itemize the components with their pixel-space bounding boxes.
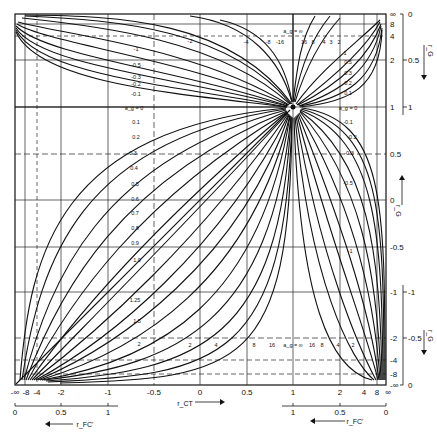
svg-text:16: 16 xyxy=(269,342,275,348)
svg-text:0.2: 0.2 xyxy=(132,134,140,140)
svg-text:r_G: r_G xyxy=(426,330,434,342)
svg-text:-8: -8 xyxy=(22,388,30,397)
svg-text:0.5: 0.5 xyxy=(55,408,67,417)
svg-text:0.7: 0.7 xyxy=(131,210,139,216)
svg-text:2: 2 xyxy=(188,342,191,348)
x-tick-labels: -∞ -8 -4 -2 -1 -0.5 0 0.5 1 2 4 8 ∞ xyxy=(11,388,391,397)
svg-text:-0.3: -0.3 xyxy=(131,74,140,80)
svg-text:-∞: -∞ xyxy=(11,388,20,397)
svg-text:1: 1 xyxy=(106,408,111,417)
svg-text:-1: -1 xyxy=(134,46,139,52)
svg-text:-2: -2 xyxy=(57,388,65,397)
svg-text:0.4: 0.4 xyxy=(130,165,138,171)
svg-text:-8: -8 xyxy=(390,370,398,379)
svg-text:-2: -2 xyxy=(390,334,398,343)
svg-text:2: 2 xyxy=(390,56,395,65)
svg-text:2: 2 xyxy=(351,342,354,348)
svg-text:4: 4 xyxy=(322,39,325,45)
svg-text:-0.5: -0.5 xyxy=(390,243,404,252)
svg-text:0.5: 0.5 xyxy=(390,150,402,159)
svg-text:1: 1 xyxy=(343,50,346,56)
svg-text:-0.2: -0.2 xyxy=(131,81,140,87)
svg-text:4: 4 xyxy=(336,342,339,348)
rfc-scale-labels: 0 0.5 1 1 0.5 0 r_FC' r_CT r_FC' xyxy=(13,400,389,429)
svg-text:1: 1 xyxy=(291,388,296,397)
bottom-secondary-scales xyxy=(15,402,386,424)
arrow-down-icon xyxy=(421,75,427,80)
svg-text:-0.5: -0.5 xyxy=(147,388,161,397)
svg-text:8: 8 xyxy=(320,342,323,348)
svg-text:8: 8 xyxy=(375,388,380,397)
svg-text:0: 0 xyxy=(13,408,18,417)
svg-text:-∞: -∞ xyxy=(390,381,399,390)
arrow-right-icon xyxy=(220,399,225,405)
svg-text:-8: -8 xyxy=(266,39,271,45)
svg-text:r_G: r_G xyxy=(394,205,402,217)
svg-text:-0.1: -0.1 xyxy=(131,91,140,97)
svg-text:-1: -1 xyxy=(408,288,416,297)
svg-text:-1: -1 xyxy=(348,248,353,254)
svg-text:a_g = ∞: a_g = ∞ xyxy=(283,342,302,348)
svg-text:0.5: 0.5 xyxy=(344,59,352,65)
svg-text:0: 0 xyxy=(198,388,203,397)
svg-text:-1: -1 xyxy=(104,388,112,397)
arrow-left-icon xyxy=(45,421,50,427)
svg-text:16: 16 xyxy=(309,342,315,348)
nomogram-chart: -∞ -8 -4 -2 -1 -0.5 0 0.5 1 2 4 8 ∞ ∞ 8 … xyxy=(0,0,437,439)
svg-text:0: 0 xyxy=(390,196,395,205)
series-labels-upper-right: 1 0.5 0.3 0.2 0.1 a_g = 0 -0.1 -0.2 -0.3… xyxy=(339,50,358,254)
svg-text:1.25: 1.25 xyxy=(130,297,141,303)
svg-text:-1: -1 xyxy=(390,288,398,297)
svg-text:0: 0 xyxy=(408,10,413,19)
svg-text:-4: -4 xyxy=(244,39,249,45)
svg-text:1: 1 xyxy=(390,103,395,112)
svg-text:2: 2 xyxy=(338,388,343,397)
svg-text:0: 0 xyxy=(408,381,413,390)
svg-text:0.5: 0.5 xyxy=(131,181,139,187)
svg-text:4: 4 xyxy=(362,388,367,397)
svg-text:0.5: 0.5 xyxy=(334,408,346,417)
arrow-up-icon xyxy=(399,175,405,180)
svg-text:8: 8 xyxy=(390,20,395,29)
center-point xyxy=(291,105,296,110)
svg-text:r_CT: r_CT xyxy=(177,400,193,408)
svg-text:1.0: 1.0 xyxy=(133,257,141,263)
svg-text:1: 1 xyxy=(408,103,413,112)
svg-text:8: 8 xyxy=(311,39,314,45)
svg-text:∞: ∞ xyxy=(390,10,396,19)
arrow-left-icon xyxy=(310,418,315,424)
svg-text:-4: -4 xyxy=(390,356,398,365)
svg-text:0.3: 0.3 xyxy=(344,70,352,76)
svg-text:-16: -16 xyxy=(276,39,284,45)
svg-text:-2: -2 xyxy=(188,38,193,44)
svg-text:-0.5: -0.5 xyxy=(343,180,352,186)
svg-text:0.1: 0.1 xyxy=(132,119,140,125)
svg-text:1.5: 1.5 xyxy=(133,318,141,324)
series-labels-bottom: 2 4 8 16 a_g = ∞ 16 8 4 2 xyxy=(188,342,354,348)
svg-text:a_g = 0: a_g = 0 xyxy=(339,105,358,111)
svg-text:-0.1: -0.1 xyxy=(343,119,352,125)
svg-text:0.6: 0.6 xyxy=(131,196,139,202)
svg-text:16: 16 xyxy=(301,39,307,45)
svg-text:r_FC': r_FC' xyxy=(347,418,364,426)
svg-text:0.5: 0.5 xyxy=(241,388,253,397)
svg-text:-0.5: -0.5 xyxy=(131,62,140,68)
svg-text:a_g = 0: a_g = 0 xyxy=(125,105,144,111)
svg-text:2: 2 xyxy=(137,341,140,347)
svg-text:0.9: 0.9 xyxy=(131,240,139,246)
rg-scale-labels: 0 0.5 1 -1 -0.5 0 r_G r_G r_G xyxy=(394,10,434,390)
svg-text:-0.3: -0.3 xyxy=(344,150,353,156)
svg-text:4: 4 xyxy=(214,342,217,348)
svg-text:r_G: r_G xyxy=(426,45,434,57)
svg-text:2: 2 xyxy=(337,39,340,45)
svg-text:0.8: 0.8 xyxy=(131,225,139,231)
svg-text:-0.5: -0.5 xyxy=(408,334,422,343)
svg-text:r_FC': r_FC' xyxy=(77,421,94,429)
svg-text:0.3: 0.3 xyxy=(129,150,137,156)
svg-text:4: 4 xyxy=(390,32,395,41)
svg-text:0.2: 0.2 xyxy=(344,80,352,86)
series-labels-upper-left: -2 -1 -0.5 -0.3 -0.2 -0.1 a_g = 0 0.1 0.… xyxy=(125,38,193,347)
svg-text:a_g = ∞: a_g = ∞ xyxy=(283,28,302,34)
svg-text:1: 1 xyxy=(291,408,296,417)
svg-text:8: 8 xyxy=(252,342,255,348)
